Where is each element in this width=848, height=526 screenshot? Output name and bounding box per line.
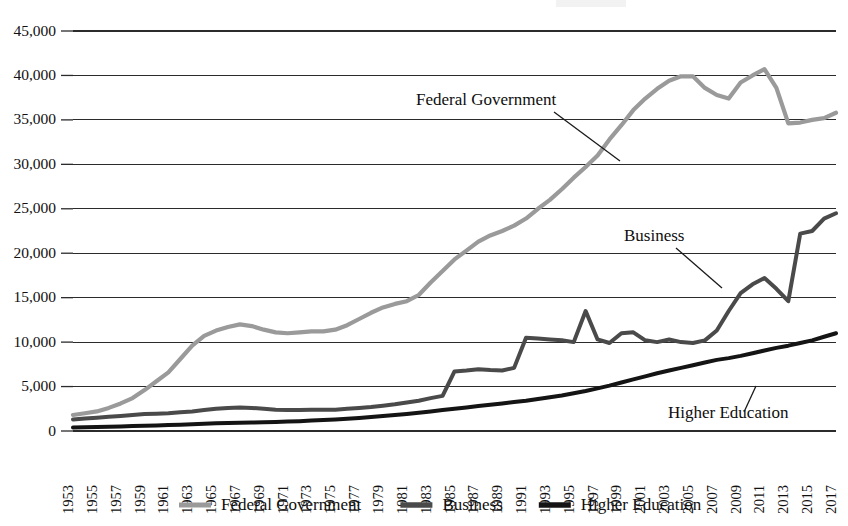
y-axis-tick-label: 45,000 (13, 22, 56, 39)
y-axis-tick-label: 5,000 (21, 377, 56, 394)
x-axis-tick-label: 2007 (704, 485, 720, 514)
y-axis-tick-label: 10,000 (13, 333, 56, 350)
annotation-label-business: Business (624, 226, 684, 245)
x-axis-tick-label: 1965 (203, 485, 219, 514)
y-axis-tick-label: 15,000 (13, 288, 56, 305)
x-axis-tick-label: 1995 (561, 485, 577, 514)
annotation-leader-line-business (676, 248, 722, 288)
y-axis-tick-label: 20,000 (13, 244, 56, 261)
y-axis-tick-label: 30,000 (13, 155, 56, 172)
annotation-label-federal-government: Federal Government (416, 90, 556, 109)
line-chart-figure: 45,00040,00035,00030,00025,00020,00015,0… (0, 0, 848, 526)
x-axis-tick-label: 2015 (799, 485, 815, 514)
x-axis-tick-label: 1953 (60, 485, 76, 514)
series-line-business (73, 213, 836, 419)
legend-label-business: Business (442, 495, 502, 514)
x-axis-tick-label: 2013 (775, 485, 791, 514)
x-axis-tick-label: 1981 (394, 485, 410, 514)
y-axis-tick-label: 0 (48, 422, 56, 439)
x-axis-tick-label: 1963 (179, 485, 195, 514)
legend: Federal GovernmentBusinessHigher Educati… (179, 495, 702, 514)
x-axis-tick-label: 1959 (132, 485, 148, 514)
y-axis-tick-label: 35,000 (13, 110, 56, 127)
y-axis-tick-labels: 45,00040,00035,00030,00025,00020,00015,0… (13, 22, 56, 439)
annotation-label-higher-education: Higher Education (668, 403, 789, 422)
series-line-federal-government (73, 69, 836, 415)
x-axis-tick-label: 2011 (751, 485, 767, 513)
y-axis-tick-label: 25,000 (13, 199, 56, 216)
cropped-title-remnant (556, 0, 626, 7)
x-axis-tick-label: 1961 (155, 485, 171, 514)
y-axis-tick-label: 40,000 (13, 66, 56, 83)
x-axis-tick-label: 1955 (84, 485, 100, 514)
x-axis-tick-label: 1991 (513, 485, 529, 514)
x-axis-tick-label: 1993 (537, 485, 553, 514)
data-series-group (73, 69, 836, 427)
legend-label-higher-education: Higher Education (581, 495, 702, 514)
series-annotations-group: Federal GovernmentBusinessHigher Educati… (416, 90, 789, 422)
x-axis-tick-label: 1979 (370, 485, 386, 514)
x-axis-tick-label: 2017 (823, 485, 839, 514)
x-axis-tick-label: 1957 (108, 485, 124, 514)
x-axis-tick-label: 2009 (728, 485, 744, 514)
legend-label-federal-government: Federal Government (221, 495, 361, 514)
chart-container: 45,00040,00035,00030,00025,00020,00015,0… (0, 0, 848, 526)
x-axis-tick-label: 1983 (418, 485, 434, 514)
